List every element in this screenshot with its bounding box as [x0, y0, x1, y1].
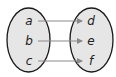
domain-element-b: b	[25, 34, 33, 48]
mapping-diagram: a b c d e f	[0, 0, 116, 77]
codomain-element-d: d	[87, 14, 95, 28]
domain-element-a: a	[25, 14, 32, 28]
codomain-element-e: e	[87, 34, 94, 48]
domain-element-c: c	[26, 54, 33, 68]
